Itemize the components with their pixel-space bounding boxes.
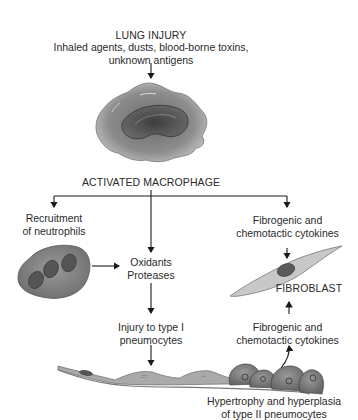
causes-line-1: Inhaled agents, dusts, blood-borne toxin…	[0, 41, 302, 54]
oxidants-line-1: Oxidants	[111, 256, 191, 269]
macrophage-cell-illustration	[96, 83, 207, 162]
neutrophils-line-2: of neutrophils	[4, 225, 104, 238]
hypertrophy-label: Hypertrophy and hyperplasia of type II p…	[200, 395, 348, 420]
injury-typeI-label: Injury to type I pneumocytes	[111, 321, 191, 346]
fibroblast-label: FIBROBLAST	[274, 282, 344, 295]
arrow-typeII-to-cytokines	[281, 346, 289, 368]
injury-line-2: pneumocytes	[111, 334, 191, 347]
typeII-pneumocytes-illustration	[229, 364, 323, 394]
activated-macrophage-label: ACTIVATED MACROPHAGE	[71, 176, 231, 189]
hypertrophy-line-2: of type II pneumocytes	[200, 408, 348, 420]
cytokines-bottom-line-1: Fibrogenic and	[230, 321, 345, 334]
neutrophil-cell-illustration	[18, 245, 90, 298]
cytokines-bottom-line-2: chemotactic cytokines	[230, 334, 345, 347]
hypertrophy-line-1: Hypertrophy and hyperplasia	[200, 395, 348, 408]
injury-causes: Inhaled agents, dusts, blood-borne toxin…	[0, 41, 302, 66]
neutrophils-line-1: Recruitment	[4, 212, 104, 225]
svg-text:∴∵: ∴∵	[141, 373, 147, 379]
injury-line-1: Injury to type I	[111, 321, 191, 334]
svg-text:∴: ∴	[202, 372, 205, 378]
cytokines-bottom-label: Fibrogenic and chemotactic cytokines	[230, 321, 345, 346]
cytokines-top-label: Fibrogenic and chemotactic cytokines	[230, 214, 345, 239]
causes-line-2: unknown antigens	[0, 54, 302, 67]
lung-injury-title: LUNG INJURY	[0, 29, 302, 42]
oxidants-line-2: Proteases	[111, 269, 191, 282]
cytokines-top-line-1: Fibrogenic and	[230, 214, 345, 227]
cytokines-top-line-2: chemotactic cytokines	[230, 227, 345, 240]
neutrophils-label: Recruitment of neutrophils	[4, 212, 104, 237]
oxidants-proteases-label: Oxidants Proteases	[111, 256, 191, 281]
